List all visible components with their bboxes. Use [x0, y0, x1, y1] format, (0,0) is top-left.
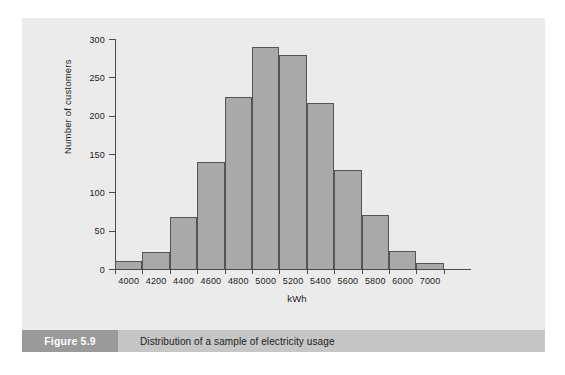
x-axis-tick: [416, 269, 417, 274]
x-axis-tick: [170, 269, 171, 274]
histogram-bar: [142, 252, 169, 270]
y-axis-tick-label: 50: [95, 226, 105, 236]
y-axis-tick: 150: [109, 154, 115, 155]
x-axis-tick: [115, 269, 116, 274]
histogram-bar: [197, 162, 224, 270]
figure-caption-bar: Figure 5.9 Distribution of a sample of e…: [22, 330, 545, 352]
x-axis-tick-label: 4400: [173, 276, 194, 286]
y-axis-tick-label: 150: [89, 150, 105, 160]
x-axis-tick-label: 6000: [392, 276, 413, 286]
x-axis-tick-label: 7000: [420, 276, 441, 286]
y-axis-tick: 50: [109, 231, 115, 232]
figure-caption-text: Distribution of a sample of electricity …: [118, 330, 335, 352]
y-axis-tick-label: 250: [89, 73, 105, 83]
histogram-bar: [334, 170, 361, 270]
x-axis-tick: [142, 269, 143, 274]
x-axis-tick-label: 4000: [118, 276, 139, 286]
histogram-bar: [170, 217, 197, 270]
x-axis-tick: [389, 269, 390, 274]
x-axis-tick: [444, 269, 445, 274]
figure-panel: 050100150200250300 Number of customers 4…: [22, 18, 545, 352]
x-axis-tick-label: 4600: [200, 276, 221, 286]
y-axis-tick: 100: [109, 192, 115, 193]
x-axis-tick: [279, 269, 280, 274]
histogram-chart: 050100150200250300 Number of customers 4…: [22, 18, 545, 330]
histogram-bar: [279, 55, 306, 270]
y-axis-tick-label: 100: [89, 188, 105, 198]
x-axis-tick: [197, 269, 198, 274]
figure-number-box: Figure 5.9: [22, 330, 118, 352]
y-axis-line: [115, 39, 116, 269]
x-axis-line: [115, 269, 471, 270]
y-axis-title: Number of customers: [62, 59, 73, 154]
histogram-bar: [389, 251, 416, 270]
histogram-bar: [252, 47, 279, 270]
x-axis-tick: [252, 269, 253, 274]
histogram-bar: [307, 103, 334, 270]
x-axis-tick-label: 5000: [255, 276, 276, 286]
x-axis-tick-label: 4200: [146, 276, 167, 286]
x-axis-tick: [225, 269, 226, 274]
y-axis-tick-label: 200: [89, 111, 105, 121]
x-axis-tick-label: 5200: [283, 276, 304, 286]
x-axis-tick-label: 5400: [310, 276, 331, 286]
y-axis-tick: 300: [109, 39, 115, 40]
x-axis-tick: [334, 269, 335, 274]
y-axis-tick: 250: [109, 77, 115, 78]
x-axis-tick-label: 4800: [228, 276, 249, 286]
x-axis-title: kWh: [287, 293, 307, 304]
x-axis-tick: [307, 269, 308, 274]
y-axis-tick-label: 300: [89, 35, 105, 45]
y-axis-tick: 200: [109, 116, 115, 117]
x-axis-tick: [362, 269, 363, 274]
histogram-bar: [225, 97, 252, 270]
x-axis-tick-label: 5800: [365, 276, 386, 286]
y-axis-tick-label: 0: [100, 265, 105, 275]
x-axis-tick-label: 5600: [337, 276, 358, 286]
histogram-bar: [362, 215, 389, 270]
figure-number-label: Figure 5.9: [44, 335, 96, 347]
